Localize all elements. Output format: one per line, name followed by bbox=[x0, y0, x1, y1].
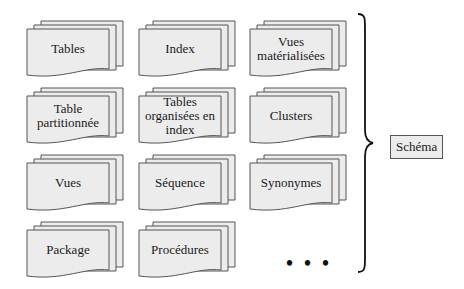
object-label: Table partitionnée bbox=[27, 96, 109, 136]
object-label: Tables organisées en index bbox=[139, 96, 221, 136]
object-stack-sequence: Séquence bbox=[139, 154, 237, 212]
object-stack-partitioned-table: Table partitionnée bbox=[27, 87, 125, 145]
ellipsis: • • • bbox=[286, 252, 332, 275]
schema-label: Schéma bbox=[390, 135, 443, 159]
object-stack-materialized-views: Vues matérialisées bbox=[250, 20, 348, 78]
object-label: Vues matérialisées bbox=[250, 29, 332, 69]
curly-brace-icon bbox=[356, 12, 376, 274]
object-label: Synonymes bbox=[250, 163, 332, 203]
object-stack-tables: Tables bbox=[27, 20, 125, 78]
object-label: Procédures bbox=[139, 230, 221, 270]
object-label: Vues bbox=[27, 163, 109, 203]
object-label: Clusters bbox=[250, 96, 332, 136]
object-stack-clusters: Clusters bbox=[250, 87, 348, 145]
object-label: Index bbox=[139, 29, 221, 69]
object-label: Tables bbox=[27, 29, 109, 69]
object-stack-package: Package bbox=[27, 221, 125, 279]
object-stack-synonyms: Synonymes bbox=[250, 154, 348, 212]
object-stack-views: Vues bbox=[27, 154, 125, 212]
object-stack-index-organized-tables: Tables organisées en index bbox=[139, 87, 237, 145]
object-label: Package bbox=[27, 230, 109, 270]
object-stack-index: Index bbox=[139, 20, 237, 78]
object-stack-procedures: Procédures bbox=[139, 221, 237, 279]
object-label: Séquence bbox=[139, 163, 221, 203]
